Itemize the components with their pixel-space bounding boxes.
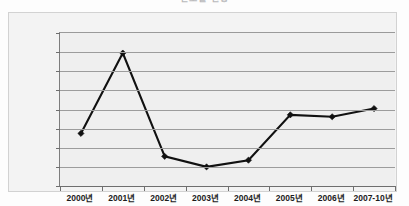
y-axis-tick [56, 129, 60, 130]
x-axis-tick [60, 186, 61, 191]
y-axis-tick [56, 33, 60, 34]
y-axis-tick [56, 110, 60, 111]
x-axis-label: 2004년 [234, 191, 261, 203]
gridline [60, 148, 395, 149]
x-axis-label: 2002년 [150, 191, 177, 203]
chart-screenshot: 연도별 현황 8,0007,0006,0005,0004,0003,0002,0… [0, 0, 409, 206]
chart-frame: 8,0007,0006,0005,0004,0003,0002,0001,000… [8, 12, 397, 192]
y-axis-tick [56, 52, 60, 53]
y-axis-tick [56, 90, 60, 91]
x-axis-tick [395, 186, 396, 191]
data-point-marker [162, 153, 168, 159]
gridline [60, 110, 395, 111]
y-axis-tick [56, 148, 60, 149]
x-axis-label: 2001년 [108, 191, 135, 203]
gridline [60, 167, 395, 168]
x-axis-label: 2006년 [318, 191, 345, 203]
data-point-marker [329, 114, 335, 120]
y-axis-tick [56, 71, 60, 72]
gridline [60, 71, 395, 72]
x-axis-label: 2007-10년 [353, 191, 392, 203]
x-axis-label: 2003년 [192, 191, 219, 203]
plot-area [59, 32, 395, 186]
x-axis-tick [228, 186, 229, 191]
chart-title: 연도별 현황 [0, 0, 409, 4]
gridline [60, 129, 395, 130]
y-axis-tick [56, 167, 60, 168]
gridline [60, 90, 395, 91]
gridline [60, 52, 395, 53]
x-axis-label: 2000년 [66, 191, 93, 203]
x-axis-tick [186, 186, 187, 191]
x-axis-tick [311, 186, 312, 191]
x-axis-label: 2005년 [276, 191, 303, 203]
x-axis-tick [269, 186, 270, 191]
x-axis-tick [144, 186, 145, 191]
x-axis-tick [102, 186, 103, 191]
